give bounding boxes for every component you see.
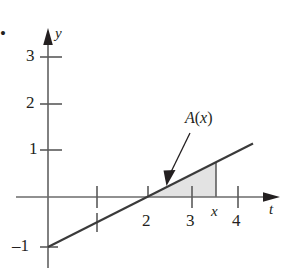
figure-canvas: • y t 3 2 1 –1 2 3 4 x A(x): [0, 0, 287, 274]
x-tick-label-3: 3: [186, 212, 195, 229]
x-variable-tick-label: x: [211, 204, 218, 219]
graph-svg: [0, 0, 287, 274]
x-tick-label-2: 2: [142, 212, 151, 229]
area-annotation-close-paren: ): [207, 109, 212, 126]
area-annotation-label: A(x): [185, 110, 213, 126]
plotted-line: [48, 144, 253, 248]
y-tick-label-3: 3: [26, 47, 35, 64]
y-axis-label: y: [55, 26, 62, 41]
annotation-leader-line: [171, 133, 191, 173]
y-tick-label-1: 1: [29, 140, 38, 157]
y-tick-label-minus-1: –1: [12, 237, 29, 254]
y-axis-arrowhead: [43, 28, 53, 45]
x-tick-label-4: 4: [232, 212, 241, 229]
bullet-marker: •: [0, 25, 6, 42]
x-axis-label: t: [269, 202, 273, 217]
area-annotation-function-name: A: [185, 109, 195, 126]
y-tick-label-2: 2: [26, 94, 35, 111]
